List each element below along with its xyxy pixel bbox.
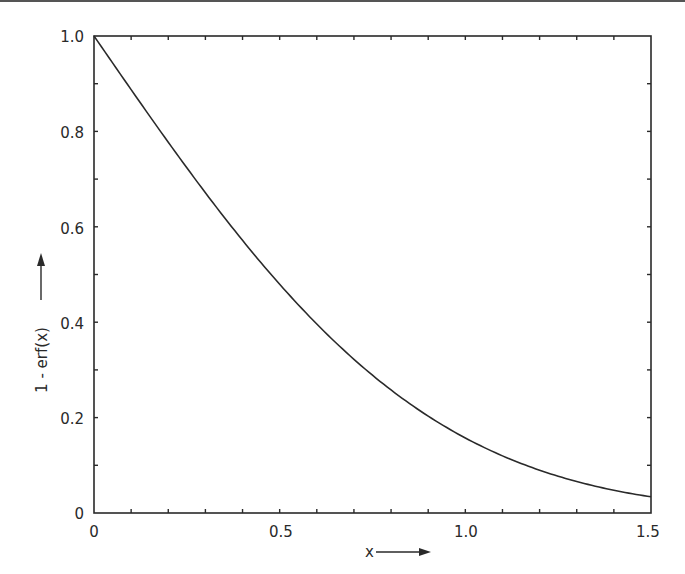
x-tick-label-0.5: 0.5 — [269, 523, 293, 541]
x-axis-label: x — [365, 543, 374, 561]
y-tick-label-0.8: 0.8 — [60, 124, 84, 142]
y-axis-arrow-icon — [37, 253, 45, 300]
y-tick-label-0.6: 0.6 — [60, 220, 84, 238]
axis-ticks — [94, 36, 651, 513]
x-tick-label-1.0: 1.0 — [454, 523, 478, 541]
y-tick-label-1.0: 1.0 — [60, 28, 84, 46]
y-axis-label: 1 - erf(x) — [33, 327, 51, 393]
erfc-chart: 0 0.2 0.4 0.6 0.8 1.0 0 0.5 1.0 1.5 x 1 … — [0, 0, 685, 574]
x-tick-label-1.5: 1.5 — [636, 523, 660, 541]
erfc-curve — [94, 36, 651, 497]
y-tick-label-0.2: 0.2 — [60, 410, 84, 428]
x-axis-arrow-icon — [376, 548, 431, 556]
y-tick-label-0: 0 — [74, 505, 84, 523]
plot-frame — [94, 36, 651, 513]
y-tick-label-0.4: 0.4 — [60, 315, 84, 333]
x-tick-label-0: 0 — [89, 523, 99, 541]
